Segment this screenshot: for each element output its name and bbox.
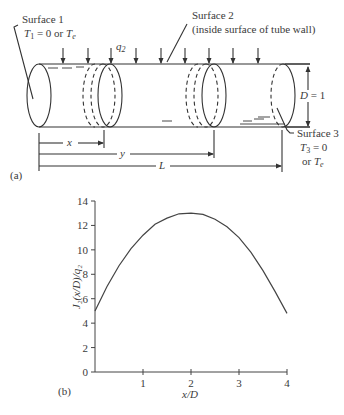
- surface3-title: Surface 3: [297, 127, 339, 139]
- heat-flux-label: q2: [116, 40, 126, 54]
- surface1-end-disk: [27, 64, 51, 127]
- data-line-series: [95, 213, 287, 313]
- dim-L-label: L: [158, 159, 165, 171]
- dim-y-label: y: [119, 147, 125, 159]
- diameter-label: D = 1: [299, 89, 325, 101]
- y-tick-label: 6: [83, 293, 89, 305]
- heat-flux-arrows: [63, 48, 258, 63]
- dim-x-label: x: [66, 136, 72, 148]
- surface2-title: Surface 2: [192, 9, 234, 21]
- figure-canvas: Surface 1 T1 = 0 or Te Surface 2 (inside…: [0, 0, 344, 415]
- ring-x-dashed-back2: [103, 64, 115, 127]
- x-axis-label: x/D: [181, 388, 198, 400]
- surface1-condition: T1 = 0 or Te: [24, 27, 76, 41]
- surface2-leader: [167, 24, 187, 62]
- surface3-end-solid: [283, 64, 295, 127]
- y-tick-label: 12: [77, 219, 88, 231]
- panel-b-label: (b): [58, 385, 71, 398]
- chart-plot: 02468101214 1234: [77, 195, 290, 389]
- x-tick-label: 1: [140, 377, 146, 389]
- y-axis-label: J₂(x/D)/q₂: [70, 265, 83, 309]
- surface3-condition: T3 = 0: [300, 141, 328, 155]
- y-tick-label: 4: [83, 317, 89, 329]
- x-tick-label: 4: [284, 377, 290, 389]
- y-tick-label: 14: [77, 195, 89, 207]
- x-tick-label: 3: [236, 377, 242, 389]
- y-tick-label: 8: [83, 268, 89, 280]
- surface3-leader: [277, 108, 294, 133]
- panel-a-label: (a): [10, 169, 23, 182]
- surface1-title: Surface 1: [22, 13, 64, 25]
- tube-diagram: [14, 24, 310, 172]
- surface2-subtitle: (inside surface of tube wall): [192, 23, 316, 36]
- ring-x-solid: [98, 64, 122, 127]
- y-tick-label: 2: [83, 342, 89, 354]
- y-tick-label: 10: [77, 244, 89, 256]
- surface3-condition-alt: or Te: [302, 155, 324, 169]
- y-tick-label: 0: [83, 366, 89, 378]
